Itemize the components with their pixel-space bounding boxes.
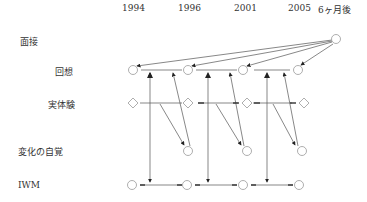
diagram-canvas [0, 0, 367, 202]
interview-node [332, 35, 341, 44]
